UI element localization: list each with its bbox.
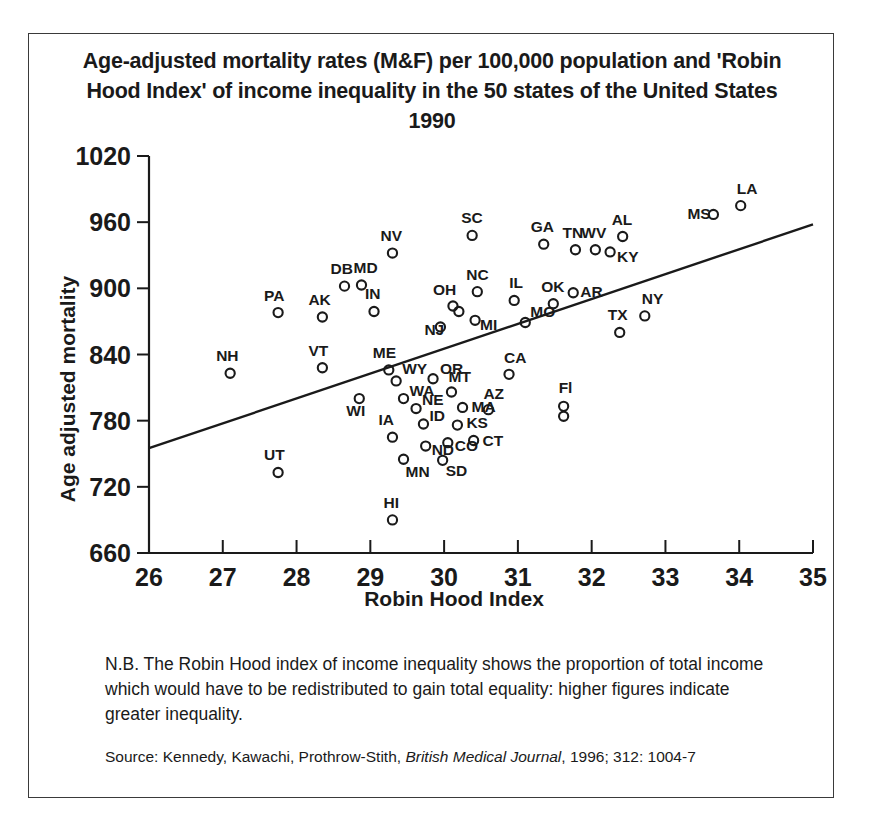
data-point (618, 232, 627, 241)
data-point (274, 308, 283, 317)
data-point (510, 296, 519, 305)
data-point-label: DB (331, 260, 353, 277)
data-point-label: CA (504, 349, 526, 366)
y-tick-label: 840 (89, 341, 131, 369)
data-point-label: TX (608, 306, 628, 323)
data-point (388, 248, 397, 257)
data-point (615, 328, 624, 337)
y-tick-label: 780 (89, 407, 131, 435)
data-point (369, 307, 378, 316)
data-point-label: ME (373, 344, 396, 361)
data-point (421, 441, 430, 450)
data-point (318, 363, 327, 372)
data-point-label: KS (466, 414, 488, 431)
data-point (470, 316, 479, 325)
source-line: Source: Kennedy, Kawachi, Prothrow-Stith… (105, 744, 785, 769)
data-point (419, 419, 428, 428)
data-point (340, 282, 349, 291)
data-point (591, 245, 600, 254)
data-point (274, 468, 283, 477)
y-tick-label: 960 (89, 208, 131, 236)
data-point (226, 369, 235, 378)
data-point (539, 240, 548, 249)
data-point (736, 201, 745, 210)
data-point (453, 420, 462, 429)
data-point-label: KY (617, 248, 639, 265)
data-point-label: WY (402, 360, 428, 377)
data-point-label: MN (406, 463, 430, 480)
data-point (606, 247, 615, 256)
data-point (388, 515, 397, 524)
data-point (458, 403, 467, 412)
y-tick-label: 720 (89, 473, 131, 501)
source-suffix: , 1996; 312: 1004-7 (561, 748, 695, 765)
data-point-label: OH (433, 281, 456, 298)
data-point-label: AZ (483, 385, 504, 402)
x-tick-label: 33 (652, 563, 680, 591)
data-point-label: NE (422, 391, 444, 408)
x-axis-title: Robin Hood Index (364, 587, 544, 610)
data-point-label: LA (737, 180, 758, 197)
data-point-label: IA (378, 411, 394, 428)
y-tick-label: 900 (89, 274, 131, 302)
data-point-label: MT (448, 368, 471, 385)
data-point-label: CO (455, 437, 478, 454)
data-point-label: PA (264, 287, 284, 304)
x-tick-label: 27 (209, 563, 237, 591)
data-point (569, 288, 578, 297)
data-point-label: VT (308, 342, 328, 359)
y-tick-label: 660 (89, 539, 131, 567)
source-prefix: Source: Kennedy, Kawachi, Prothrow-Stith… (105, 748, 405, 765)
data-point (447, 387, 456, 396)
data-point-label: MS (687, 205, 710, 222)
data-point-label: IL (509, 274, 523, 291)
footnote-block: N.B. The Robin Hood index of income ineq… (105, 652, 785, 769)
data-point (468, 231, 477, 240)
x-tick-label: 32 (578, 563, 606, 591)
y-tick-label: 1020 (75, 142, 131, 170)
scatter-plot: 6607207808409009601020262728293031323334… (29, 34, 835, 634)
data-point-label: ND (432, 441, 454, 458)
data-point (454, 307, 463, 316)
data-point-label: HI (383, 494, 399, 511)
data-point (399, 394, 408, 403)
data-point (504, 370, 513, 379)
data-point-label: GA (531, 218, 554, 235)
data-point-label: MI (480, 316, 497, 333)
data-point (559, 402, 568, 411)
data-point-label: WI (346, 402, 365, 419)
data-point-label: IN (365, 285, 381, 302)
data-point-label: WV (581, 224, 607, 241)
data-point-label: UT (264, 446, 285, 463)
data-point-label: NJ (424, 321, 444, 338)
data-point-label: AL (612, 211, 633, 228)
data-point-label: SC (461, 209, 483, 226)
data-point (392, 376, 401, 385)
data-point-label: MD (353, 259, 377, 276)
x-tick-label: 34 (725, 563, 753, 591)
data-point (559, 412, 568, 421)
data-point-label: AK (308, 291, 331, 308)
data-point-label: NH (216, 347, 238, 364)
data-point-label: Fl (559, 379, 573, 396)
figure-panel: Age-adjusted mortality rates (M&F) per 1… (28, 33, 834, 798)
data-point-label: NC (466, 266, 488, 283)
plot-canvas: 6607207808409009601020262728293031323334… (29, 34, 835, 634)
data-point-label: NY (642, 290, 664, 307)
data-point (640, 311, 649, 320)
data-point-label: CT (483, 432, 504, 449)
data-point (448, 301, 457, 310)
data-point-label: SD (446, 462, 468, 479)
x-tick-label: 26 (135, 563, 163, 591)
x-tick-label: 28 (283, 563, 311, 591)
data-point-label: ID (429, 407, 445, 424)
x-tick-label: 35 (799, 563, 827, 591)
data-point-label: NV (380, 227, 402, 244)
data-point (571, 245, 580, 254)
data-point-label: AR (580, 283, 602, 300)
data-point (411, 404, 420, 413)
source-journal: British Medical Journal (405, 748, 561, 765)
data-point-label: MO (530, 303, 555, 320)
data-point (318, 312, 327, 321)
data-point (473, 287, 482, 296)
